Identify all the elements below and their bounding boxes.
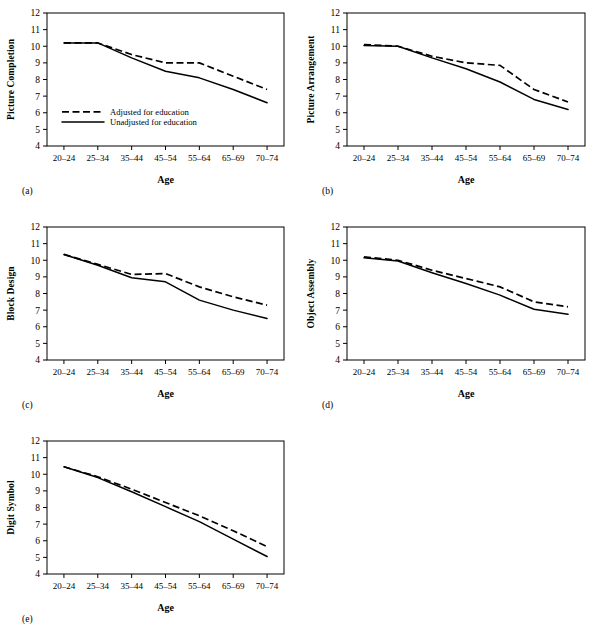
y-tick-label: 5 [335, 125, 340, 135]
x-tick-label: 55–64 [188, 367, 211, 377]
x-tick-label: 20–24 [53, 581, 76, 591]
y-tick-label: 10 [331, 42, 341, 52]
y-tick-label: 10 [31, 470, 41, 480]
x-tick-label: 70–74 [256, 581, 279, 591]
y-tick-label: 6 [35, 536, 40, 546]
y-tick-label: 8 [35, 75, 40, 85]
y-tick-label: 4 [335, 141, 340, 151]
y-tick-label: 10 [31, 42, 41, 52]
x-axis-title: Age [157, 388, 174, 399]
y-tick-label: 7 [35, 520, 40, 530]
x-tick-label: 35–44 [421, 153, 444, 163]
series-line-unadjusted [64, 467, 267, 557]
x-tick-label: 70–74 [256, 367, 279, 377]
x-tick-label: 45–54 [154, 367, 177, 377]
figure-panel-grid: 45678910111220–2425–3435–4445–5455–6465–… [0, 0, 602, 642]
series-line-adjusted [364, 45, 568, 102]
x-tick-label: 45–54 [455, 153, 478, 163]
y-tick-label: 9 [35, 58, 40, 68]
chart-panel-c: 45678910111220–2425–3435–4445–5455–6465–… [0, 214, 301, 424]
y-tick-label: 6 [335, 108, 340, 118]
y-tick-label: 12 [331, 222, 341, 232]
y-tick-label: 11 [31, 453, 40, 463]
x-tick-label: 20–24 [353, 153, 376, 163]
x-tick-label: 20–24 [53, 153, 76, 163]
y-tick-label: 7 [335, 92, 340, 102]
x-tick-label: 25–34 [87, 581, 110, 591]
series-line-adjusted [64, 43, 267, 90]
y-tick-label: 8 [35, 289, 40, 299]
x-axis-title: Age [157, 602, 174, 613]
y-tick-label: 11 [31, 239, 40, 249]
x-tick-label: 55–64 [188, 581, 211, 591]
y-tick-label: 7 [335, 306, 340, 316]
x-tick-label: 70–74 [557, 367, 580, 377]
y-tick-label: 6 [35, 108, 40, 118]
x-tick-label: 65–69 [222, 153, 245, 163]
series-line-unadjusted [364, 258, 568, 315]
y-tick-label: 9 [35, 486, 40, 496]
y-axis-title: Object Assembly [306, 258, 316, 328]
x-tick-label: 25–34 [387, 153, 410, 163]
y-tick-label: 9 [335, 272, 340, 282]
chart-panel-b: 45678910111220–2425–3435–4445–5455–6465–… [300, 0, 602, 212]
y-tick-label: 4 [335, 355, 340, 365]
y-tick-label: 9 [335, 58, 340, 68]
y-tick-label: 12 [331, 8, 341, 18]
series-line-unadjusted [64, 43, 267, 103]
x-tick-label: 25–34 [387, 367, 410, 377]
x-axis-title: Age [458, 388, 475, 399]
panel-letter: (e) [22, 614, 33, 625]
chart-panel-a: 45678910111220–2425–3435–4445–5455–6465–… [0, 0, 301, 212]
panel-letter: (c) [22, 400, 33, 411]
y-tick-label: 6 [335, 322, 340, 332]
x-tick-label: 35–44 [120, 581, 143, 591]
y-tick-label: 5 [35, 553, 40, 563]
x-tick-label: 25–34 [87, 153, 110, 163]
x-tick-label: 55–64 [489, 153, 512, 163]
y-tick-label: 8 [335, 289, 340, 299]
x-tick-label: 65–69 [222, 367, 245, 377]
x-axis-title: Age [458, 174, 475, 185]
y-tick-label: 7 [35, 306, 40, 316]
x-tick-label: 35–44 [120, 367, 143, 377]
y-tick-label: 10 [331, 256, 341, 266]
y-axis-title: Picture Completion [6, 38, 16, 120]
x-tick-label: 65–69 [523, 153, 546, 163]
x-tick-label: 70–74 [557, 153, 580, 163]
y-tick-label: 11 [31, 25, 40, 35]
panel-letter: (a) [22, 186, 33, 197]
x-tick-label: 35–44 [120, 153, 143, 163]
y-tick-label: 6 [35, 322, 40, 332]
x-tick-label: 45–54 [455, 367, 478, 377]
y-tick-label: 10 [31, 256, 41, 266]
x-tick-label: 45–54 [154, 581, 177, 591]
x-axis-title: Age [157, 174, 174, 185]
y-axis-title: Digit Symbol [6, 480, 16, 535]
y-tick-label: 12 [31, 436, 41, 446]
plot-frame [347, 13, 585, 146]
chart-panel-e: 45678910111220–2425–3435–4445–5455–6465–… [0, 428, 301, 642]
legend-label-adjusted: Adjusted for education [110, 107, 189, 117]
series-line-unadjusted [364, 45, 568, 109]
plot-frame [47, 227, 284, 360]
legend-label-unadjusted: Unadjusted for education [110, 117, 198, 127]
series-line-adjusted [64, 254, 267, 305]
y-tick-label: 8 [35, 503, 40, 513]
x-tick-label: 55–64 [188, 153, 211, 163]
x-tick-label: 55–64 [489, 367, 512, 377]
y-tick-label: 5 [35, 125, 40, 135]
x-tick-label: 70–74 [256, 153, 279, 163]
x-tick-label: 25–34 [87, 367, 110, 377]
plot-frame [347, 227, 585, 360]
x-tick-label: 65–69 [523, 367, 546, 377]
y-tick-label: 7 [35, 92, 40, 102]
series-line-adjusted [364, 257, 568, 307]
plot-frame [47, 441, 284, 574]
y-tick-label: 4 [35, 141, 40, 151]
y-tick-label: 12 [31, 8, 41, 18]
y-tick-label: 4 [35, 569, 40, 579]
y-tick-label: 11 [331, 25, 340, 35]
series-line-unadjusted [64, 254, 267, 318]
y-tick-label: 12 [31, 222, 41, 232]
